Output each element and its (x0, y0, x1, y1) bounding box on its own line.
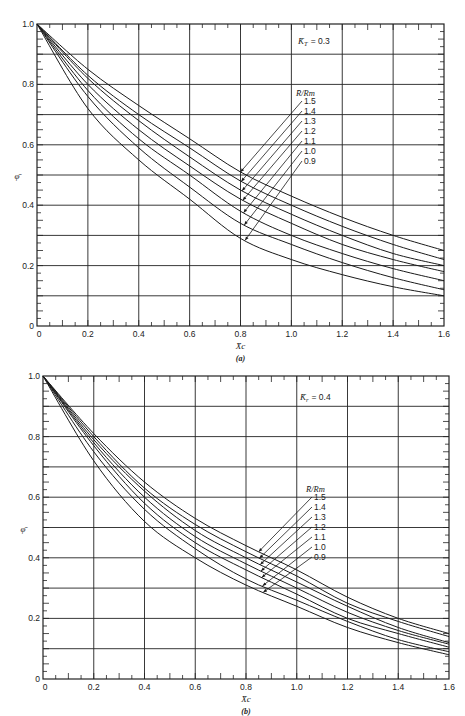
y-tick-label: 1.0 (28, 371, 40, 381)
y-tick-label: 0.2 (28, 613, 40, 623)
inline-legend: R̄/Rm1.51.41.31.21.11.00.9 (259, 484, 326, 592)
x-tick-label: 1.4 (387, 329, 399, 339)
y-tick-labels: 00.20.40.60.81.0 (22, 19, 34, 331)
y-tick-label: 0.4 (28, 553, 40, 563)
legend-entry: 0.9 (304, 156, 316, 166)
x-tick-label: 1.0 (291, 682, 303, 692)
x-tick-labels: 00.20.40.60.81.01.21.41.6 (37, 329, 451, 339)
x-tick-label: 0.6 (189, 682, 201, 692)
x-tick-labels: 00.20.40.60.81.01.21.41.6 (43, 682, 456, 692)
legend-entry: 1.1 (314, 532, 326, 542)
legend-entry: 1.1 (304, 136, 316, 146)
legend-leader-line (242, 121, 302, 191)
legend-entry: 1.2 (304, 126, 316, 136)
chart-panel-b: 00.20.40.60.81.01.21.41.600.20.40.60.81.… (21, 371, 456, 716)
gridlines (37, 24, 444, 326)
legend-leader-line (241, 101, 303, 172)
legend-entry: 1.0 (304, 146, 316, 156)
y-tick-label: 0.2 (22, 261, 34, 271)
legend-entry: 1.3 (314, 512, 326, 522)
x-axis-title: X̄c (235, 341, 246, 351)
x-tick-label: 0.8 (235, 329, 247, 339)
y-tick-label: 1.0 (22, 19, 34, 29)
x-tick-label: 0 (37, 329, 42, 339)
legend-entry: 1.3 (304, 116, 316, 126)
arrowhead-icon (263, 589, 267, 592)
x-tick-label: 0.2 (82, 329, 94, 339)
x-tick-label: 0.6 (184, 329, 196, 339)
legend-entry: 1.4 (304, 106, 316, 116)
x-tick-label: 1.4 (392, 682, 404, 692)
y-tick-label: 0.6 (22, 140, 34, 150)
panel-label: (b) (241, 707, 251, 716)
x-tick-label: 0.4 (139, 682, 151, 692)
legend-leader-line (243, 131, 302, 200)
legend-entry: 1.2 (314, 522, 326, 532)
y-tick-labels: 00.20.40.60.81.0 (28, 371, 40, 684)
figure-canvas: 00.20.40.60.81.01.21.41.600.20.40.60.81.… (0, 0, 465, 716)
x-tick-label: 1.0 (285, 329, 297, 339)
gridlines (43, 376, 449, 679)
legend-entry: 0.9 (314, 552, 326, 562)
y-tick-label: 0.6 (28, 492, 40, 502)
legend-leader-line (241, 111, 302, 181)
y-tick-label: 0 (35, 674, 40, 684)
x-tick-label: 1.6 (438, 329, 450, 339)
y-tick-label: 0.8 (28, 432, 40, 442)
legend-entry: 1.5 (304, 96, 316, 106)
legend-entry: 1.0 (314, 542, 326, 552)
panel-label: (a) (236, 354, 246, 363)
legend-entry: 1.5 (314, 492, 326, 502)
x-tick-label: 0.4 (133, 329, 145, 339)
x-tick-label: 0.2 (88, 682, 100, 692)
x-tick-label: 1.2 (342, 682, 354, 692)
y-tick-label: 0 (29, 321, 34, 331)
x-axis-title: X̄c (240, 694, 251, 704)
x-tick-label: 0.8 (240, 682, 252, 692)
parameter-annotation: K̄r= 0.4 (299, 392, 331, 403)
legend-leader-line (259, 507, 312, 558)
arrowhead-icon (245, 236, 248, 240)
chart-panel-a: 00.20.40.60.81.01.21.41.600.20.40.60.81.… (15, 19, 451, 363)
x-tick-label: 0 (43, 682, 48, 692)
x-tick-label: 1.2 (336, 329, 348, 339)
x-tick-label: 1.6 (443, 682, 455, 692)
y-axis-title: φ̄ (21, 524, 29, 534)
legend-entry: 1.4 (314, 502, 326, 512)
y-tick-label: 0.8 (22, 79, 34, 89)
y-tick-label: 0.4 (22, 200, 34, 210)
parameter-annotation: K̄T= 0.3 (297, 36, 330, 47)
y-axis-title: φ̄ (15, 171, 23, 181)
